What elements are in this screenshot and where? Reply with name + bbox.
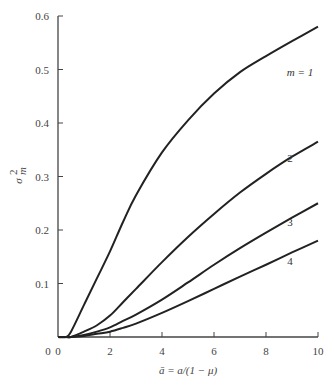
svg-text:m: m: [16, 167, 28, 175]
curve-label-m3: 3: [287, 216, 293, 228]
curves: [58, 27, 318, 338]
x-tick-label: 4: [159, 345, 165, 357]
svg-text:σ: σ: [12, 178, 24, 184]
origin-label: 0: [45, 345, 51, 357]
y-tick-label: 0.5: [35, 64, 49, 76]
x-tick-label: 2: [107, 345, 113, 357]
x-axis-label: ā = a/(1 − μ): [159, 364, 218, 377]
curve-label-m1: m = 1: [287, 66, 313, 78]
curve-m2: [58, 142, 318, 338]
curve-label-m4: 4: [287, 255, 293, 267]
y-tick-label: 0.2: [35, 224, 49, 236]
curve-label-m2: 2: [287, 152, 293, 164]
x-tick-label: 0: [55, 345, 61, 357]
y-tick-label: 0.6: [35, 10, 49, 22]
y-tick-label: 0.1: [35, 278, 49, 290]
x-tick-label: 8: [263, 345, 269, 357]
x-tick-label: 6: [211, 345, 217, 357]
y-tick-label: 0.4: [35, 117, 49, 129]
y-axis-label: σ2m: [7, 167, 28, 184]
x-tick-label: 10: [313, 345, 325, 357]
line-chart: 02468100.10.20.30.40.50.6ā = a/(1 − μ)σ2…: [0, 0, 331, 381]
axes: [58, 16, 318, 337]
curve-m3: [58, 203, 318, 337]
labels: 02468100.10.20.30.40.50.6ā = a/(1 − μ)σ2…: [7, 10, 324, 377]
y-tick-label: 0.3: [35, 171, 49, 183]
curve-m1: [58, 27, 318, 338]
curve-m4: [58, 241, 318, 337]
